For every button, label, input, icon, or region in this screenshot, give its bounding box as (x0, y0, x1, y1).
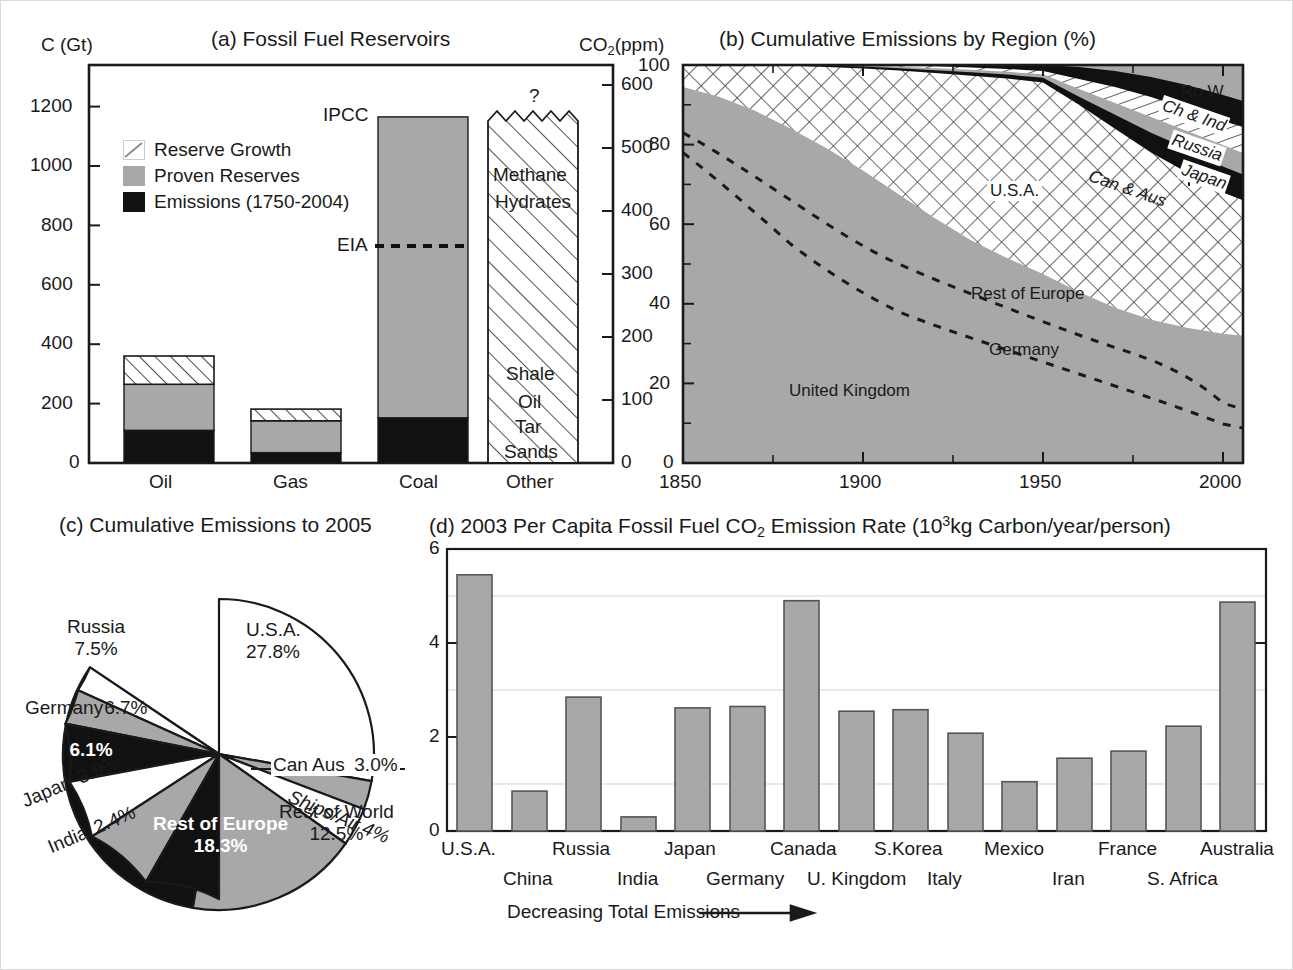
other-label-methane: Methane (493, 164, 567, 186)
bar-japan (675, 708, 710, 831)
pie-label-china-name: China (132, 581, 185, 603)
panel-a-ytick-1000: 1000 (30, 154, 72, 176)
pie-label-can-aus: Can Aus 3.0% (271, 754, 400, 776)
legend-swatch-grey (123, 166, 145, 186)
region-label-row: Ro W (1181, 82, 1224, 102)
pie-label-rest-of-europe: Rest of Europe 18.3% (153, 813, 288, 858)
panel-b-xtick-1850: 1850 (659, 471, 701, 493)
panel-d-xlabel-china: China (503, 868, 553, 890)
legend-label-reserve-growth: Reserve Growth (154, 139, 291, 161)
other-label-oil: Oil (518, 391, 541, 413)
panel-d-per-capita-emission-rate: (d) 2003 Per Capita Fossil Fuel CO2 Emis… (421, 501, 1293, 970)
panel-d-xlabel-uk: U. Kingdom (807, 868, 906, 890)
pie-label-can-aus-name: Can Aus (273, 754, 345, 775)
panel-c-cumulative-emissions-to-2005: (c) Cumulative Emissions to 2005 (1, 501, 441, 970)
panel-d-xlabel-iran: Iran (1052, 868, 1085, 890)
legend-label-emissions: Emissions (1750-2004) (154, 191, 349, 213)
panel-d-xlabel-japan: Japan (664, 838, 716, 860)
panel-d-xlabel-italy: Italy (927, 868, 962, 890)
pie-label-germany-value: 6.7% (104, 697, 147, 719)
ipcc-label: IPCC (323, 104, 368, 126)
panel-d-xlabel-germany: Germany (706, 868, 784, 890)
panel-b-ytick-60: 60 (649, 213, 670, 235)
panel-b-xtick-1950: 1950 (1019, 471, 1061, 493)
other-label-sands: Sands (504, 441, 558, 463)
pie-label-china: China 7.8% (132, 581, 185, 625)
region-label-united-kingdom: United Kingdom (789, 381, 910, 401)
bar-mexico (1002, 782, 1037, 831)
panel-a-ytick-800: 800 (41, 214, 73, 236)
legend-swatch-hatch (123, 140, 145, 160)
bar-italy (948, 733, 983, 831)
panel-d-xlabel-canada: Canada (770, 838, 837, 860)
panel-a-ytick-0: 0 (69, 451, 80, 473)
panel-a-left-ticks (89, 107, 100, 463)
region-label-usa: U.S.A. (987, 181, 1042, 201)
panel-d-ytick-0: 0 (429, 819, 440, 841)
bar-canada (784, 601, 819, 831)
other-label-shale: Shale (506, 363, 555, 385)
panel-a-xtick-other: Other (506, 471, 554, 493)
panel-b-ytick-80: 80 (649, 133, 670, 155)
panel-a-legend: Reserve Growth Proven Reserves Emissions… (123, 137, 349, 215)
panel-a-ytick-1200: 1200 (30, 95, 72, 117)
panel-d-footnote: Decreasing Total Emissions (507, 901, 740, 923)
pie-label-china-value: 7.8% (132, 603, 185, 625)
panel-a-ytick-600: 600 (41, 273, 73, 295)
panel-b-xtick-1900: 1900 (839, 471, 881, 493)
other-label-hydrates: Hydrates (495, 191, 571, 213)
panel-b-cumulative-emissions-by-region: (b) Cumulative Emissions by Region (%) (641, 1, 1293, 501)
pie-label-roe-name: Rest of Europe (153, 813, 288, 835)
bar-coal (378, 117, 468, 463)
panel-b-ytick-100: 100 (638, 54, 670, 76)
bar-germany (730, 707, 765, 832)
panel-b-ytick-20: 20 (649, 372, 670, 394)
panel-b-ytick-40: 40 (649, 292, 670, 314)
panel-a-y2tick-0: 0 (621, 451, 632, 473)
bar-usa (457, 575, 492, 831)
panel-d-ytick-2: 2 (429, 725, 440, 747)
bar-gas (251, 409, 341, 463)
panel-d-ytick-6: 6 (429, 537, 440, 559)
bar-skorea (893, 710, 928, 831)
panel-a-xtick-gas: Gas (273, 471, 308, 493)
bar-uk (839, 711, 874, 831)
panel-b-xtick-2000: 2000 (1199, 471, 1241, 493)
panel-d-xlabel-mexico: Mexico (984, 838, 1044, 860)
panel-b-ytick-0: 0 (663, 451, 674, 473)
bar-russia (566, 697, 601, 831)
bar-india (621, 817, 656, 831)
panel-a-xtick-coal: Coal (399, 471, 438, 493)
pie-label-germany-name: Germany (25, 697, 103, 719)
panel-d-bars (457, 575, 1255, 831)
panel-d-ytick-4: 4 (429, 631, 440, 653)
panel-d-xlabel-australia: Australia (1200, 838, 1274, 860)
panel-a-right-ticks (602, 85, 613, 463)
pie-label-usa: U.S.A. 27.8% (246, 619, 301, 663)
pie-label-germany: Germany 6.7% (25, 697, 147, 719)
panel-a-ytick-200: 200 (41, 392, 73, 414)
region-label-rest-of-europe: Rest of Europe (971, 284, 1084, 304)
pie-label-uk-name: U.K. (23, 739, 61, 760)
pie-label-can-aus-value: 3.0% (354, 754, 397, 775)
bar-iran (1057, 758, 1092, 831)
panel-d-xlabel-usa: U.S.A. (441, 838, 496, 860)
pie-label-usa-value: 27.8% (246, 641, 301, 663)
panel-d-xlabel-russia: Russia (552, 838, 610, 860)
pie-label-russia-name: Russia (67, 616, 125, 638)
panel-a-fossil-fuel-reservoirs: (a) Fossil Fuel Reservoirs C (Gt) CO2(pp… (1, 1, 651, 501)
bar-china (512, 791, 547, 831)
other-label-tar: Tar (515, 416, 541, 438)
pie-label-russia: Russia 7.5% (67, 616, 125, 660)
panel-a-xtick-oil: Oil (149, 471, 172, 493)
panel-a-plot (1, 1, 651, 501)
eia-label: EIA (337, 234, 368, 256)
region-label-germany: Germany (989, 340, 1059, 360)
panel-d-xlabel-india: India (617, 868, 658, 890)
bar-oil (124, 356, 214, 463)
panel-d-xlabel-skorea: S.Korea (874, 838, 943, 860)
figure-canvas: (a) Fossil Fuel Reservoirs C (Gt) CO2(pp… (0, 0, 1293, 970)
panel-d-plot (421, 501, 1293, 970)
bar-safrica (1166, 726, 1201, 831)
bar-france (1111, 751, 1146, 831)
